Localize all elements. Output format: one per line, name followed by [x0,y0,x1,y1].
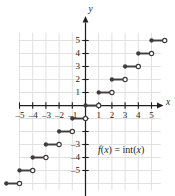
open-endpoint [163,38,167,42]
y-tick-label-2: 2 [76,75,81,84]
closed-endpoint [4,181,8,185]
open-endpoint [44,155,48,159]
y-axis-label: y [89,5,93,15]
open-endpoint [97,103,101,107]
function-equation: f(x) = int(x) [98,145,144,155]
x-axis-label: x [166,98,170,108]
open-endpoint [17,181,21,185]
closed-endpoint [110,77,114,81]
x-tick-label-neg5: –5 [16,111,25,120]
closed-endpoint [44,142,48,146]
open-endpoint [149,51,153,55]
graph-figure: –5–4–3–2–112345–5–4–312345xy f(x) = int(… [0,0,175,196]
open-endpoint [123,77,127,81]
x-tick-label-1: 1 [96,111,101,120]
y-tick-label-1: 1 [76,88,81,97]
closed-endpoint [123,64,127,68]
x-tick-label-neg4: –4 [29,111,38,120]
y-tick-label-neg5: –5 [71,166,80,175]
open-endpoint [110,90,114,94]
x-axis-arrow [157,103,164,109]
x-tick-label-2: 2 [110,111,115,120]
x-tick-label-neg2: –2 [55,111,64,120]
y-tick-label-neg3: –3 [71,140,80,149]
y-axis-arrow [83,16,89,23]
x-tick-label-neg1: –1 [68,111,77,120]
x-tick-label-3: 3 [123,111,128,120]
closed-endpoint [17,168,21,172]
open-endpoint [31,168,35,172]
closed-endpoint [31,155,35,159]
x-tick-label-4: 4 [136,111,141,120]
open-endpoint [70,129,74,133]
open-endpoint [57,142,61,146]
open-endpoint [136,64,140,68]
closed-endpoint [57,129,61,133]
y-tick-label-5: 5 [76,36,81,45]
y-tick-label-neg4: –4 [71,153,80,162]
coordinate-plane [0,0,175,196]
closed-endpoint [136,51,140,55]
open-endpoint [83,116,87,120]
closed-endpoint [83,103,87,107]
x-tick-label-neg3: –3 [42,111,51,120]
y-tick-label-4: 4 [76,49,81,58]
closed-endpoint [97,90,101,94]
x-tick-label-5: 5 [149,111,154,120]
closed-endpoint [149,38,153,42]
y-tick-label-3: 3 [76,62,81,71]
